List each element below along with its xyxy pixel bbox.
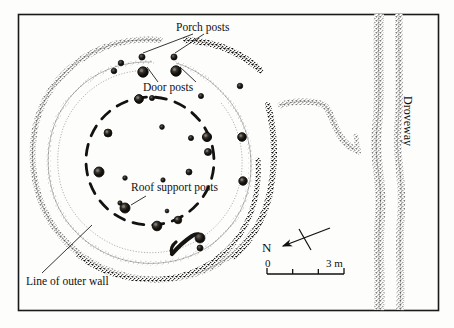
post-hole-wall-line bbox=[237, 83, 243, 89]
north-arrow bbox=[283, 228, 330, 250]
post-hole-highlight bbox=[204, 134, 207, 137]
post-hole-highlight bbox=[96, 169, 99, 172]
post-hole-roof-support bbox=[174, 216, 182, 224]
post-hole-porch bbox=[139, 54, 145, 60]
post-hole-highlight bbox=[206, 150, 208, 152]
site-plan-figure: Porch posts Door posts Roof support post… bbox=[0, 0, 454, 328]
post-hole-interior-minor bbox=[188, 135, 193, 140]
post-hole-roof-support bbox=[202, 132, 211, 141]
post-hole-roof-support bbox=[104, 129, 112, 137]
post-hole-highlight bbox=[154, 223, 157, 226]
field-boundary-ditch bbox=[281, 102, 358, 153]
scale-bar-start-label: 0 bbox=[265, 258, 271, 269]
label-door-posts: Door posts bbox=[143, 82, 193, 94]
door-leader-left bbox=[147, 67, 158, 82]
label-droveway: Droveway bbox=[402, 96, 414, 146]
label-north: N bbox=[262, 241, 271, 254]
post-hole-porch bbox=[171, 54, 177, 60]
post-hole-wall-line bbox=[118, 60, 124, 66]
post-hole-door bbox=[138, 67, 148, 77]
post-hole-interior-minor bbox=[186, 169, 192, 175]
roof-support-post-ring bbox=[74, 85, 226, 237]
label-porch-posts: Porch posts bbox=[176, 22, 229, 34]
post-hole-highlight bbox=[140, 69, 143, 72]
post-hole-interior-minor bbox=[118, 201, 122, 205]
post-hole-roof-support bbox=[239, 177, 247, 185]
label-line-of-outer-wall: Line of outer wall bbox=[26, 276, 109, 288]
scale-bar-end-label: 3 m bbox=[326, 258, 343, 269]
post-hole-roof-support bbox=[135, 95, 144, 104]
post-hole-roof-support bbox=[238, 133, 247, 142]
roof-leader bbox=[131, 196, 146, 205]
post-hole-door bbox=[171, 66, 181, 76]
post-hole-highlight bbox=[106, 131, 108, 133]
post-hole-roof-support bbox=[94, 167, 104, 177]
post-hole-roof-support bbox=[204, 148, 211, 155]
post-hole-interior-minor bbox=[160, 125, 165, 130]
post-hole-highlight bbox=[173, 68, 176, 71]
post-hole-wall-line bbox=[111, 68, 117, 74]
post-hole-highlight bbox=[241, 178, 244, 181]
post-hole-wall-line bbox=[197, 245, 203, 251]
post-hole-highlight bbox=[136, 96, 139, 99]
post-hole-interior-minor bbox=[123, 176, 128, 181]
post-hole-interior-minor bbox=[165, 209, 169, 213]
outer-wall-leader bbox=[42, 225, 92, 273]
post-hole-interior-minor bbox=[198, 93, 203, 98]
post-hole-highlight bbox=[122, 205, 125, 208]
post-hole-highlight bbox=[240, 134, 243, 137]
label-roof-support-posts: Roof support posts bbox=[131, 182, 218, 194]
droveway-ditches bbox=[376, 14, 402, 310]
post-hole-interior-minor bbox=[149, 95, 154, 100]
post-hole-highlight bbox=[176, 218, 178, 220]
post-hole-roof-support bbox=[152, 221, 162, 231]
